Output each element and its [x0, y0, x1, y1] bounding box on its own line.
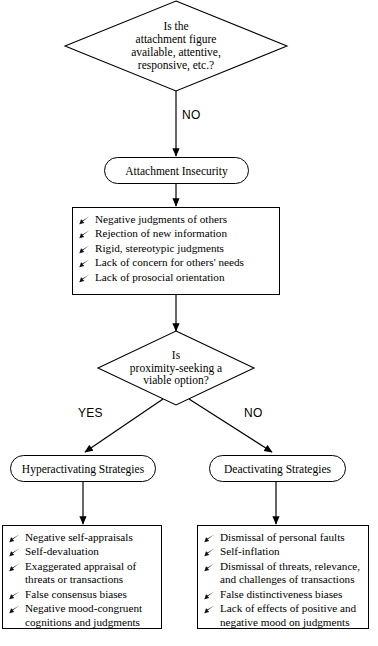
pen-nib-bullet-icon: [79, 229, 90, 238]
list-item: Negative mood-congruent cognitions and j…: [9, 602, 157, 629]
pen-nib-bullet-icon: [204, 562, 215, 571]
deactivating-outcomes-list: Dismissal of personal faults Self-inflat…: [198, 526, 368, 635]
pen-nib-bullet-icon: [79, 244, 90, 253]
pen-nib-bullet-icon: [79, 215, 90, 224]
edge-label-no-branch: NO: [244, 406, 263, 420]
node-deactivating-strategies[interactable]: Deactivating Strategies: [209, 455, 346, 482]
pen-nib-bullet-icon: [79, 258, 90, 267]
decision-2-line-3: viable option?: [130, 374, 222, 387]
list-item: Lack of effects of positive and negative…: [204, 602, 364, 629]
list-item: False distinctiveness biases: [204, 588, 364, 601]
hyperactivating-outcomes-list: Negative self-appraisals Self-devaluatio…: [3, 526, 161, 635]
list-deactivating-outcomes: Dismissal of personal faults Self-inflat…: [197, 525, 369, 629]
list-general-outcomes: Negative judgments of others Rejection o…: [72, 207, 280, 295]
general-outcomes-list: Negative judgments of others Rejection o…: [73, 208, 279, 290]
list-item: Negative judgments of others: [79, 213, 275, 226]
decision-proximity-seeking: Is proximity-seeking a viable option?: [99, 332, 253, 404]
deactivating-label: Deactivating Strategies: [224, 463, 331, 475]
pen-nib-bullet-icon: [9, 604, 20, 613]
pen-nib-bullet-icon: [204, 590, 215, 599]
list-item: Self-inflation: [204, 545, 364, 558]
pen-nib-bullet-icon: [204, 533, 215, 542]
decision-attachment-figure: Is the attachment figure available, atte…: [66, 2, 286, 90]
decision-1-line-4: responsive, etc.?: [131, 59, 221, 72]
edge-label-yes: YES: [78, 406, 103, 420]
hyperactivating-label: Hyperactivating Strategies: [22, 463, 144, 475]
list-item: Rigid, stereotypic judgments: [79, 242, 275, 255]
list-item: False consensus biases: [9, 588, 157, 601]
pen-nib-bullet-icon: [9, 590, 20, 599]
list-item: Dismissal of personal faults: [204, 531, 364, 544]
pen-nib-bullet-icon: [9, 547, 20, 556]
node-hyperactivating-strategies[interactable]: Hyperactivating Strategies: [10, 455, 156, 482]
list-item: Dismissal of threats, relevance, and cha…: [204, 560, 364, 587]
list-item: Self-devaluation: [9, 545, 157, 558]
list-hyperactivating-outcomes: Negative self-appraisals Self-devaluatio…: [2, 525, 162, 629]
pen-nib-bullet-icon: [9, 562, 20, 571]
pen-nib-bullet-icon: [79, 273, 90, 282]
pen-nib-bullet-icon: [204, 547, 215, 556]
list-item: Negative self-appraisals: [9, 531, 157, 544]
node-attachment-insecurity[interactable]: Attachment Insecurity: [104, 157, 249, 184]
decision-2-line-1: Is: [130, 349, 222, 362]
list-item: Lack of concern for others' needs: [79, 256, 275, 269]
attachment-insecurity-label: Attachment Insecurity: [125, 165, 228, 177]
decision-1-line-3: available, attentive,: [131, 46, 221, 59]
decision-2-line-2: proximity-seeking a: [130, 362, 222, 375]
decision-1-line-1: Is the: [131, 20, 221, 33]
pen-nib-bullet-icon: [9, 533, 20, 542]
decision-1-line-2: attachment figure: [131, 33, 221, 46]
edge-label-no-top: NO: [182, 108, 201, 122]
list-item: Exaggerated appraisal of threats or tran…: [9, 560, 157, 587]
pen-nib-bullet-icon: [204, 604, 215, 613]
flowchart-canvas: Is the attachment figure available, atte…: [0, 0, 378, 646]
list-item: Rejection of new information: [79, 227, 275, 240]
list-item: Lack of prosocial orientation: [79, 271, 275, 284]
